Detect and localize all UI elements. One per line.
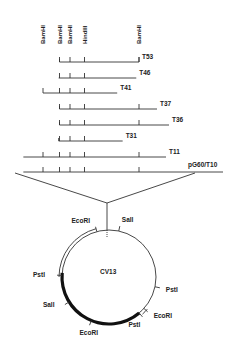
clone-row: T37: [60, 100, 172, 109]
triangle-lines: [15, 173, 195, 203]
clone-label: T41: [120, 84, 132, 91]
clone-row: T46: [59, 69, 151, 78]
clone-label: T53: [142, 53, 154, 60]
site-labels: BamHIBamHIBamHIHindIIIBamHI: [40, 25, 142, 44]
insert-thick-arc: [62, 273, 139, 324]
plasmid-site-tick: [96, 227, 97, 232]
vector-line: pG60/T10: [23, 161, 223, 172]
clone-row: T53: [60, 53, 154, 62]
clone-row: T36: [60, 116, 184, 125]
clone-map: T53T46T41T37T36T31T11pG60/T10: [23, 53, 223, 172]
site-label: HindIII: [82, 25, 88, 44]
clone-label: T46: [139, 69, 151, 76]
clone-label: T36: [172, 116, 184, 123]
clone-label: T37: [160, 100, 172, 107]
restriction-map-figure: BamHIBamHIBamHIHindIIIBamHI T53T46T41T37…: [0, 0, 239, 351]
clone-label: pG60/T10: [188, 161, 218, 169]
plasmid-site-label: EcoRI: [72, 217, 91, 224]
plasmid-site-label: SalI: [122, 216, 134, 223]
plasmid-site-tick: [119, 226, 120, 231]
clone-row: T11: [23, 148, 180, 157]
plasmid-site-label: EcoRI: [80, 329, 99, 336]
plasmid-site-label: PstI: [166, 286, 178, 293]
insert-expansion-triangle: [15, 173, 195, 238]
clone-label: T31: [126, 132, 138, 139]
site-label: BamHI: [57, 25, 63, 44]
site-label: BamHI: [67, 25, 73, 44]
plasmid-site-label: PstI: [128, 321, 140, 328]
clone-label: T11: [169, 148, 180, 155]
clone-row: T41: [43, 84, 132, 93]
vector-double-arc: [59, 229, 96, 277]
clone-row: T31: [59, 132, 138, 141]
plasmid-name: CV13: [100, 268, 117, 275]
plasmid-site-label: EcoRI: [154, 312, 173, 319]
plasmid-map: CV13EcoRISalIPstISalIEcoRIPstIEcoRIPstI: [33, 216, 178, 336]
site-label: BamHI: [136, 25, 142, 44]
plasmid-site-label: SalI: [43, 301, 55, 308]
site-label: BamHI: [40, 25, 46, 44]
plasmid-site-tick: [139, 313, 142, 317]
plasmid-site-label: PstI: [33, 271, 45, 278]
plasmid-site-tick: [155, 287, 160, 288]
